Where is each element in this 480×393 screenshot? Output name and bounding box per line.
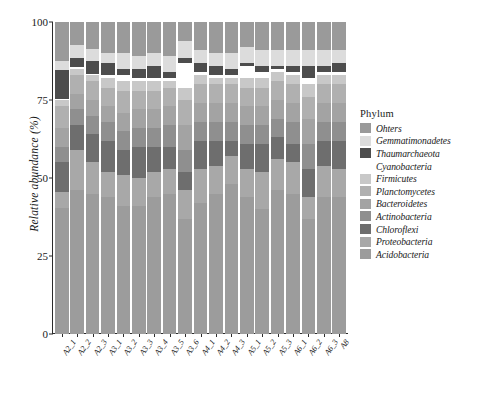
bar-segment[interactable] [70,190,84,334]
bar-column[interactable] [86,22,100,334]
bar-segment[interactable] [70,150,84,191]
bar-segment[interactable] [55,162,69,192]
bar-segment[interactable] [302,50,316,66]
bar-segment[interactable] [117,175,131,206]
bar-segment[interactable] [240,169,254,197]
bar-segment[interactable] [86,81,100,100]
bar-segment[interactable] [271,72,285,81]
bar-segment[interactable] [302,84,316,96]
bar-segment[interactable] [178,63,192,88]
bar-segment[interactable] [225,156,239,184]
bar-segment[interactable] [194,122,208,141]
bar-segment[interactable] [101,172,115,197]
bar-segment[interactable] [101,106,115,122]
legend-item[interactable]: Acidobacteria [360,248,478,261]
legend-item[interactable]: Firmicutes [360,172,478,185]
bar-segment[interactable] [117,22,131,53]
bar-column[interactable] [255,22,269,334]
bar-column[interactable] [317,22,331,334]
bar-segment[interactable] [225,122,239,141]
bar-segment[interactable] [117,150,131,175]
bar-segment[interactable] [271,119,285,138]
bar-segment[interactable] [147,81,161,90]
bar-segment[interactable] [101,197,115,334]
bar-segment[interactable] [209,194,223,334]
bar-segment[interactable] [317,122,331,141]
legend-item[interactable]: Planctomycetes [360,185,478,198]
bar-segment[interactable] [194,50,208,62]
bar-segment[interactable] [255,125,269,144]
bar-segment[interactable] [332,122,346,141]
bar-segment[interactable] [178,150,192,172]
bar-segment[interactable] [209,103,223,122]
bar-segment[interactable] [302,22,316,50]
bar-segment[interactable] [147,172,161,197]
bar-segment[interactable] [70,125,84,150]
bar-segment[interactable] [117,53,131,69]
legend-item[interactable]: Actinobacteria [360,210,478,223]
bar-segment[interactable] [132,206,146,334]
bar-column[interactable] [194,22,208,334]
bar-segment[interactable] [240,197,254,334]
bar-segment[interactable] [132,69,146,78]
bar-segment[interactable] [209,166,223,194]
bar-segment[interactable] [70,75,84,94]
bar-segment[interactable] [55,70,69,98]
bar-segment[interactable] [209,122,223,141]
bar-segment[interactable] [194,75,208,84]
bar-segment[interactable] [178,41,192,58]
bar-segment[interactable] [240,144,254,169]
bar-segment[interactable] [332,22,346,50]
bar-segment[interactable] [225,22,239,53]
bar-segment[interactable] [178,172,192,191]
legend-item[interactable]: Gemmatimonadetes [360,135,478,148]
bar-column[interactable] [286,22,300,334]
bar-segment[interactable] [132,81,146,90]
bar-segment[interactable] [332,141,346,169]
bar-segment[interactable] [55,147,69,163]
bar-column[interactable] [302,22,316,334]
bar-column[interactable] [55,22,69,334]
bar-segment[interactable] [209,66,223,75]
bar-segment[interactable] [70,109,84,125]
bar-segment[interactable] [86,100,100,116]
bar-segment[interactable] [132,147,146,178]
bar-segment[interactable] [194,203,208,334]
bar-segment[interactable] [209,84,223,103]
bar-segment[interactable] [147,147,161,172]
bar-segment[interactable] [194,22,208,50]
bar-segment[interactable] [86,194,100,334]
bar-segment[interactable] [147,22,161,53]
bar-segment[interactable] [286,122,300,144]
bar-segment[interactable] [55,61,69,70]
bar-segment[interactable] [70,94,84,110]
bar-segment[interactable] [302,219,316,334]
bar-segment[interactable] [271,22,285,50]
bar-segment[interactable] [86,22,100,49]
bar-segment[interactable] [240,47,254,63]
bar-segment[interactable] [117,91,131,113]
bar-segment[interactable] [101,63,115,75]
bar-segment[interactable] [178,100,192,125]
bar-segment[interactable] [225,53,239,69]
bar-segment[interactable] [271,137,285,159]
bar-segment[interactable] [332,63,346,72]
legend-item[interactable]: Chloroflexi [360,223,478,236]
bar-segment[interactable] [302,169,316,197]
bar-segment[interactable] [147,91,161,110]
bar-segment[interactable] [286,50,300,66]
bar-segment[interactable] [255,209,269,334]
bar-segment[interactable] [317,103,331,122]
bar-segment[interactable] [101,141,115,172]
bar-segment[interactable] [117,131,131,150]
bar-segment[interactable] [240,106,254,125]
bar-segment[interactable] [194,169,208,203]
bar-segment[interactable] [317,75,331,84]
bar-segment[interactable] [317,50,331,66]
bar-segment[interactable] [147,53,161,65]
bar-segment[interactable] [332,197,346,334]
bar-segment[interactable] [286,75,300,84]
bar-segment[interactable] [101,88,115,107]
bar-segment[interactable] [163,169,177,194]
bar-segment[interactable] [178,88,192,100]
